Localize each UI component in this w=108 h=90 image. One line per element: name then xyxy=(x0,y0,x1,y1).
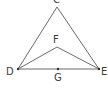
label-e: E xyxy=(101,66,107,77)
label-g: G xyxy=(54,72,62,83)
triangle-diagram: C F D G E xyxy=(0,0,108,90)
segment-fe xyxy=(57,47,99,69)
label-d: D xyxy=(6,66,14,77)
segment-df xyxy=(18,47,57,69)
point-d-dot xyxy=(17,68,19,70)
label-f: F xyxy=(53,34,59,45)
segment-ce xyxy=(57,7,99,69)
segment-cd xyxy=(18,7,57,69)
point-g-dot xyxy=(57,68,59,70)
point-e-dot xyxy=(98,68,100,70)
label-c: C xyxy=(53,0,60,5)
